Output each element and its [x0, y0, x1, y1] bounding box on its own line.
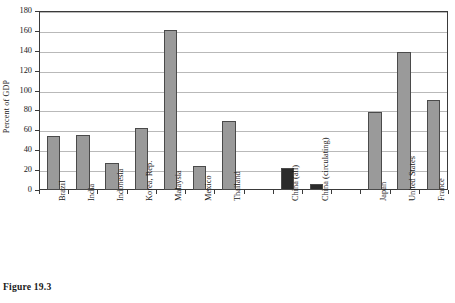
gridline-180	[40, 12, 447, 13]
x-tick-mark	[214, 190, 215, 194]
x-axis-labels: BrazilIndiaIndonesiaKorea, Rep.MalaysiaM…	[39, 195, 448, 275]
x-tick-mark	[39, 190, 40, 194]
plot-area	[39, 11, 448, 190]
x-axis-label-text: United States	[408, 156, 417, 202]
x-axis-label-text: France	[437, 178, 446, 202]
gridline-120	[40, 72, 447, 73]
x-axis-label-text: Indonesia	[116, 168, 125, 202]
gridline-80	[40, 111, 447, 112]
x-axis-label-text: Japan	[379, 182, 388, 202]
x-tick-mark	[68, 190, 69, 194]
x-axis-label-text: China (all)	[291, 165, 300, 202]
gridline-140	[40, 52, 447, 53]
gridline-60	[40, 131, 447, 132]
y-tick-label: 80	[4, 106, 32, 114]
figure-container: Percent of GDP 020406080100120140160180 …	[0, 0, 455, 303]
figure-caption: Figure 19.3	[3, 281, 51, 292]
x-axis-label-text: China (circulating)	[321, 138, 330, 203]
y-tick-label: 160	[4, 27, 32, 35]
x-axis-label-text: India	[87, 184, 96, 202]
x-axis-label-text: Korea, Rep.	[145, 161, 154, 202]
gridline-20	[40, 171, 447, 172]
y-tick-label: 120	[4, 67, 32, 75]
x-tick-mark	[273, 190, 274, 194]
x-tick-mark	[390, 190, 391, 194]
y-tick-label: 140	[4, 47, 32, 55]
y-tick-label: 180	[4, 7, 32, 15]
x-axis-label-text: Malaysia	[174, 170, 183, 202]
x-axis-label-text: Thailand	[233, 171, 242, 202]
y-axis-ticks: 020406080100120140160180	[0, 11, 39, 190]
y-tick-label: 60	[4, 126, 32, 134]
x-tick-mark	[156, 190, 157, 194]
x-tick-mark	[302, 190, 303, 194]
x-tick-mark	[97, 190, 98, 194]
y-tick-label: 100	[4, 87, 32, 95]
x-tick-mark	[185, 190, 186, 194]
x-axis-label-text: Mexico	[204, 175, 213, 202]
x-axis-label-text: Brazil	[58, 181, 67, 202]
y-tick-label: 40	[4, 146, 32, 154]
x-tick-mark	[331, 190, 332, 194]
x-tick-mark	[448, 190, 449, 194]
x-tick-mark	[419, 190, 420, 194]
gridline-100	[40, 92, 447, 93]
x-tick-mark	[360, 190, 361, 194]
gridline-40	[40, 151, 447, 152]
gridline-160	[40, 32, 447, 33]
x-tick-mark	[127, 190, 128, 194]
y-tick-label: 20	[4, 166, 32, 174]
x-tick-mark	[244, 190, 245, 194]
y-tick-label: 0	[4, 186, 32, 194]
